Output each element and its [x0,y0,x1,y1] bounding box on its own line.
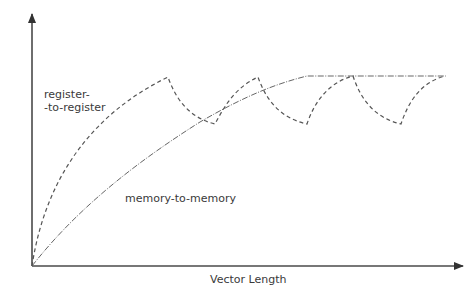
register-to-register-label: register- -to-register [44,88,106,114]
performance-chart [0,0,475,293]
register-label-line2: -to-register [44,101,106,114]
memory-to-memory-label: memory-to-memory [125,192,236,205]
register-label-line1: register- [44,88,106,101]
x-axis-label: Vector Length [210,273,287,286]
